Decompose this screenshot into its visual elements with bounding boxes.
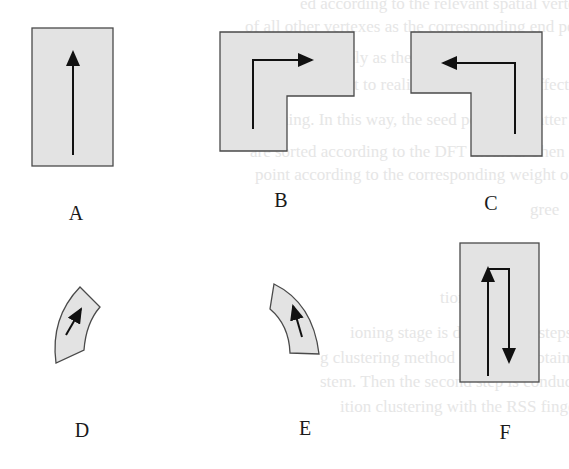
panel-d-region <box>55 287 100 363</box>
panel-b <box>220 32 354 151</box>
panel-f-label: F <box>499 421 510 444</box>
panel-c-label: C <box>484 192 497 215</box>
panel-e <box>270 284 319 354</box>
panel-c-region <box>411 32 542 156</box>
traversal-diagram <box>0 0 569 469</box>
panel-f-region <box>460 243 539 382</box>
panel-d-label: D <box>75 419 89 442</box>
panel-e-region <box>270 284 319 354</box>
panel-c <box>411 32 542 156</box>
panel-f <box>460 243 539 382</box>
panel-d <box>55 287 100 363</box>
panel-b-region <box>220 32 354 151</box>
panel-a <box>32 28 113 166</box>
panel-b-label: B <box>274 189 287 212</box>
panel-a-label: A <box>69 202 83 225</box>
panel-e-label: E <box>299 417 311 440</box>
